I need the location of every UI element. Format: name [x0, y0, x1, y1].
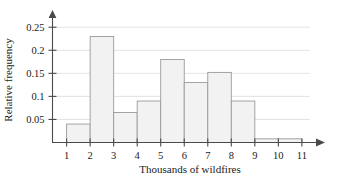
histogram-bar [278, 139, 302, 143]
y-tick-label: 0.2 [31, 45, 44, 56]
y-axis-arrow-icon [49, 10, 57, 18]
histogram-bar [184, 83, 208, 143]
x-tick-labels: 1234567891011 [64, 150, 307, 161]
x-tick-label: 6 [182, 150, 187, 161]
chart-canvas: 1234567891011 0.050.10.150.20.25 Thousan… [0, 0, 338, 179]
histogram-bar [161, 60, 185, 143]
y-tick-label: 0.25 [26, 22, 44, 33]
y-tick-label: 0.15 [26, 68, 44, 79]
y-axis-title: Relative frequency [2, 38, 14, 122]
x-tick-label: 10 [273, 150, 284, 161]
x-tick-label: 9 [252, 150, 257, 161]
x-tick-label: 5 [158, 150, 163, 161]
y-tick-label: 0.1 [31, 91, 44, 102]
x-tick-label: 11 [297, 150, 307, 161]
x-axis-arrow-icon [316, 139, 325, 147]
x-tick-label: 8 [229, 150, 234, 161]
x-axis-title: Thousands of wildfires [139, 163, 240, 175]
histogram-bar [114, 113, 138, 143]
x-tick-label: 1 [64, 150, 69, 161]
histogram-bar [137, 101, 161, 143]
x-tick-label: 4 [135, 150, 141, 161]
x-tick-label: 7 [205, 150, 210, 161]
histogram-bar [231, 101, 255, 143]
histogram-bar [67, 124, 91, 142]
histogram-bar [90, 36, 114, 142]
bars [67, 36, 302, 142]
x-tick-label: 3 [111, 150, 116, 161]
y-tick-labels: 0.050.10.150.20.25 [26, 22, 44, 125]
x-tick-label: 2 [88, 150, 93, 161]
histogram-bar [208, 72, 232, 142]
histogram-chart: 1234567891011 0.050.10.150.20.25 Thousan… [0, 0, 338, 179]
y-tick-label: 0.05 [26, 114, 44, 125]
histogram-bar [255, 139, 279, 143]
